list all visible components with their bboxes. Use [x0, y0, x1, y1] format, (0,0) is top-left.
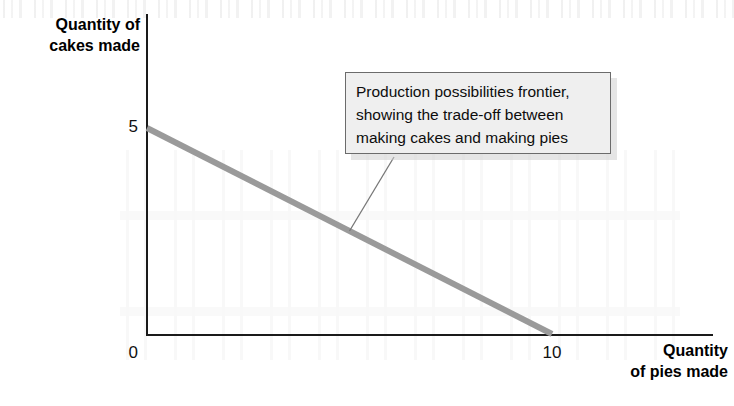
annotation-box: Production possibilities frontier, showi…: [345, 72, 611, 154]
annotation-text: Production possibilities frontier, showi…: [356, 80, 606, 149]
y-axis-line: [146, 14, 148, 336]
y-axis-title: Quantity of cakes made: [0, 14, 140, 56]
origin-tick-label: 0: [104, 343, 138, 363]
x-axis-line: [146, 334, 713, 336]
annotation-leader-line: [350, 157, 395, 231]
x-tick-label-10: 10: [526, 343, 578, 363]
ppf-chart-figure: Quantity of cakes made Quantity of pies …: [0, 0, 734, 406]
scan-bleed-artifact-body: [120, 150, 680, 360]
y-tick-label-5: 5: [104, 117, 138, 137]
